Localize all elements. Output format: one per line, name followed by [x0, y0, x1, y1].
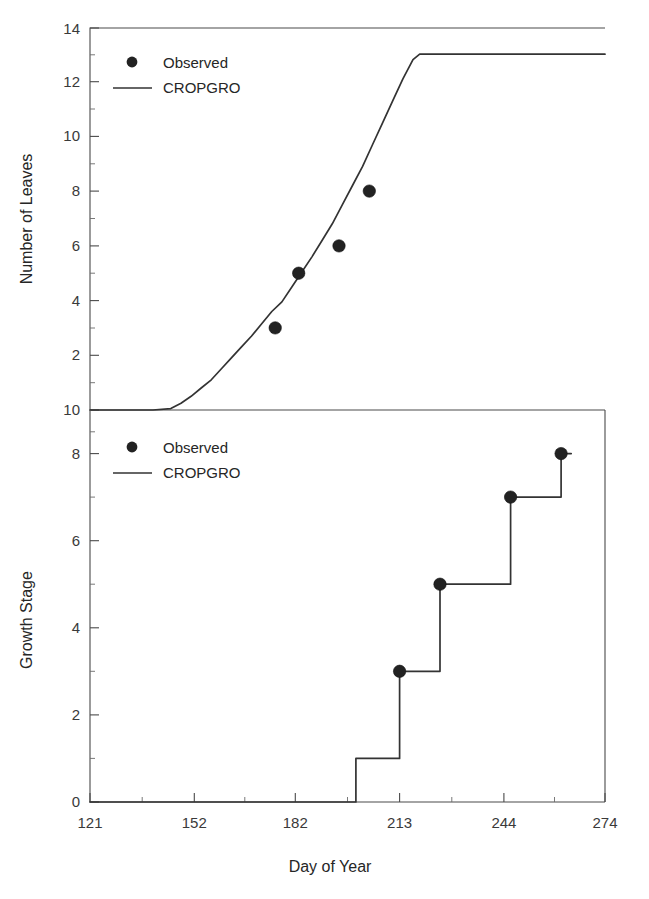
- bottom-ytick-label: 2: [72, 706, 80, 723]
- xaxis-tick-labels: 121 152 182 213 244 274: [77, 814, 617, 831]
- top-panel: 10 2 4 6 8 10 12 14 Number of Leaves: [18, 20, 605, 419]
- xtick-label: 182: [283, 814, 308, 831]
- legend-marker-icon: [127, 442, 138, 453]
- legend-marker-icon: [127, 57, 138, 68]
- legend-label-cropgro: CROPGRO: [163, 79, 241, 96]
- bottom-ytick-label: 6: [72, 532, 80, 549]
- legend-label-observed: Observed: [163, 54, 228, 71]
- top-cropgro-line: [90, 54, 605, 410]
- top-yaxis-title: Number of Leaves: [18, 154, 35, 285]
- top-ytick-label: 2: [72, 346, 80, 363]
- bottom-ytick-label: 0: [72, 793, 80, 810]
- top-ytick-label: 6: [72, 237, 80, 254]
- top-ytick-label: 14: [63, 20, 80, 37]
- top-ytick-label: 10: [63, 401, 80, 418]
- xtick-label: 121: [77, 814, 102, 831]
- top-y-major-ticks: [90, 28, 99, 410]
- data-point: [393, 665, 405, 677]
- bottom-cropgro-step: [90, 454, 571, 802]
- bottom-observed-markers: [393, 447, 567, 677]
- top-ytick-label: 12: [63, 73, 80, 90]
- data-point: [504, 491, 516, 503]
- legend-label-cropgro: CROPGRO: [163, 464, 241, 481]
- bottom-panel: 0 2 4 6 8 Growth Stage: [18, 410, 618, 875]
- data-point: [333, 240, 345, 252]
- data-point: [293, 267, 305, 279]
- xtick-label: 244: [491, 814, 516, 831]
- figure-container: 10 2 4 6 8 10 12 14 Number of Leaves: [0, 0, 649, 899]
- legend-label-observed: Observed: [163, 439, 228, 456]
- data-point: [555, 447, 567, 459]
- top-ytick-label: 8: [72, 182, 80, 199]
- top-y-tick-labels: 10 2 4 6 8 10 12 14: [63, 20, 80, 419]
- data-point: [269, 322, 281, 334]
- top-ytick-label: 4: [72, 292, 80, 309]
- xtick-label: 213: [387, 814, 412, 831]
- bottom-ytick-label: 8: [72, 445, 80, 462]
- xaxis-title: Day of Year: [289, 858, 372, 875]
- xtick-label: 274: [592, 814, 617, 831]
- data-point: [363, 185, 375, 197]
- top-ytick-label: 10: [63, 127, 80, 144]
- bottom-y-minor-ticks: [90, 432, 95, 759]
- data-point: [434, 578, 446, 590]
- top-y-minor-ticks: [90, 55, 95, 383]
- bottom-yaxis-title: Growth Stage: [18, 571, 35, 669]
- xtick-label: 152: [182, 814, 207, 831]
- bottom-legend: Observed CROPGRO: [113, 439, 241, 481]
- top-observed-markers: [269, 185, 375, 334]
- chart-svg: 10 2 4 6 8 10 12 14 Number of Leaves: [0, 0, 649, 899]
- bottom-y-tick-labels: 0 2 4 6 8: [72, 445, 80, 810]
- top-legend: Observed CROPGRO: [113, 54, 241, 96]
- bottom-ytick-label: 4: [72, 619, 80, 636]
- bottom-y-major-ticks: [90, 454, 99, 802]
